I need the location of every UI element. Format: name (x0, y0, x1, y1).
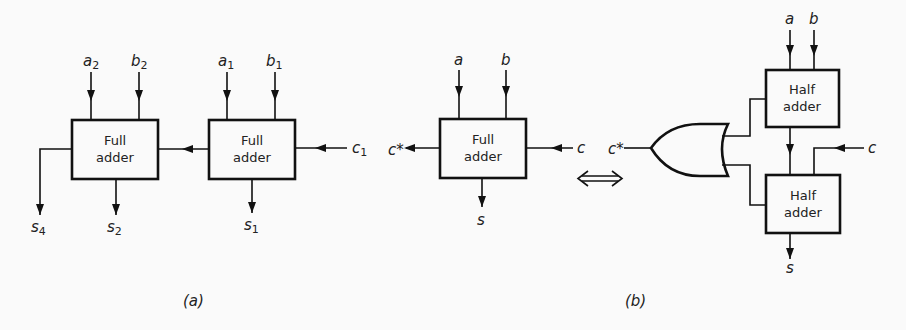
s4-wire (40, 149, 72, 215)
s1-label: s1 (244, 216, 259, 236)
half-adder-top-label-1: Half (789, 82, 815, 97)
a1-label: a1 (218, 52, 234, 72)
ha-a-arrow-icon (786, 45, 794, 56)
part-b: Full adder a b c c* s (388, 10, 877, 310)
half-adder-bottom-box (766, 175, 840, 233)
half-adder-top: Half adder a b (766, 10, 839, 127)
c1-arrow-icon (315, 144, 326, 152)
b2-label: b2 (131, 52, 148, 72)
caption-a: (a) (183, 292, 204, 310)
fa-a-arrow-icon (455, 86, 463, 97)
half-adder-top-label-2: adder (783, 99, 821, 114)
caption-b: (b) (625, 292, 646, 310)
fa-s-arrow-icon (478, 196, 486, 207)
a2-arrow-icon (87, 90, 95, 101)
ha-top-carry-wire (722, 99, 766, 136)
half-adder-bottom-label-1: Half (790, 188, 816, 203)
full-adder-1: Full adder a1 b1 s1 c1 (209, 52, 367, 236)
s2-arrow-icon (112, 204, 120, 215)
a1-arrow-icon (223, 90, 231, 101)
ha-c-wire (814, 148, 864, 175)
s2-label: s2 (107, 218, 122, 238)
ha-bottom-carry-wire (722, 165, 766, 205)
full-adder-b-label-1: Full (472, 132, 494, 147)
part-a: Full adder a2 b2 s2 s4 Full add (31, 52, 367, 310)
adder-diagram: Full adder a2 b2 s2 s4 Full add (0, 0, 906, 330)
ha-b-label: b (809, 10, 819, 28)
carry-arrow-icon (182, 145, 193, 153)
fa-c-arrow-icon (551, 144, 562, 152)
c1-label: c1 (352, 139, 367, 159)
half-adder-bottom: Half adder c s (766, 139, 877, 277)
full-adder-1-label-1: Full (241, 133, 263, 148)
fa-b-arrow-icon (502, 86, 510, 97)
ha-s-label: s (786, 259, 794, 277)
full-adder-2-label-2: adder (96, 150, 134, 165)
a2-label: a2 (83, 52, 99, 72)
ha-b-arrow-icon (810, 45, 818, 56)
b1-label: b1 (266, 52, 283, 72)
equivalence-arrow-icon (578, 171, 622, 186)
b1-arrow-icon (271, 90, 279, 101)
full-adder-b-label-2: adder (464, 149, 502, 164)
half-adder-bottom-label-2: adder (784, 205, 822, 220)
fa-a-label: a (454, 51, 463, 69)
ha-c-arrow-icon (834, 144, 845, 152)
fa-cstar-label: c* (388, 141, 404, 159)
b2-arrow-icon (135, 90, 143, 101)
full-adder-2-label-1: Full (104, 133, 126, 148)
fa-cstar-arrow-icon (404, 144, 415, 152)
or-gate-icon (651, 124, 728, 176)
fa-b-label: b (501, 51, 511, 69)
s1-arrow-icon (248, 202, 256, 213)
fa-c-label: c (577, 139, 586, 157)
full-adder-1-label-2: adder (233, 150, 271, 165)
s4-arrow-icon (36, 204, 44, 215)
full-adder-2: Full adder a2 b2 s2 s4 (31, 52, 158, 238)
fa-s-label: s (477, 211, 485, 229)
or-cstar-label: c* (608, 140, 624, 158)
full-adder-b: Full adder a b c c* s (388, 51, 586, 229)
ha-sum-link-arrow-icon (786, 144, 794, 155)
ha-a-label: a (785, 10, 794, 28)
ha-c-label: c (868, 139, 877, 157)
s4-label: s4 (31, 218, 46, 238)
ha-s-arrow-icon (786, 248, 794, 259)
